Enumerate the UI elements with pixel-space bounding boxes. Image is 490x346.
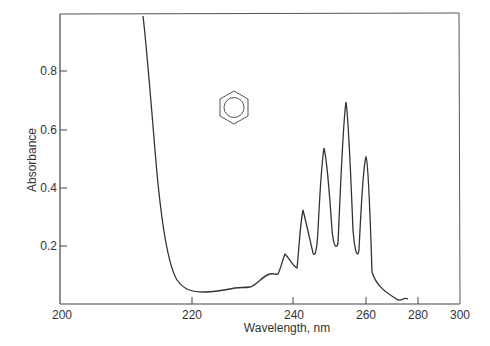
x-tick-label: 300 — [450, 308, 470, 322]
y-tick-label: 0.8 — [40, 64, 57, 78]
x-tick-label: 200 — [52, 308, 72, 322]
absorbance-chart: 0.8 0.6 0.4 0.2 200 220 240 260 280 300 … — [0, 0, 490, 346]
benzene-ring-icon — [220, 91, 248, 124]
right-border — [459, 13, 460, 304]
x-tick-label: 280 — [408, 308, 428, 322]
y-tick-label: 0.6 — [40, 123, 57, 137]
x-tick-label: 240 — [284, 308, 304, 322]
plot-frame — [60, 13, 460, 304]
y-ticks — [60, 71, 67, 246]
x-axis-title: Wavelength, nm — [244, 321, 330, 335]
x-ticks — [192, 297, 418, 304]
top-border — [60, 13, 459, 14]
y-axis-title: Absorbance — [25, 128, 39, 192]
absorbance-curve — [143, 16, 408, 300]
x-tick-label: 220 — [182, 308, 202, 322]
y-tick-label: 0.2 — [40, 239, 57, 253]
y-tick-label: 0.4 — [40, 181, 57, 195]
x-tick-label: 260 — [356, 308, 376, 322]
